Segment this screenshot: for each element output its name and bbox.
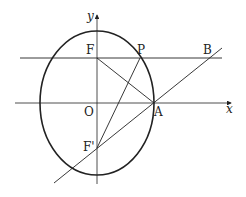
y-axis-label: y [86, 9, 94, 23]
label-origin: O [84, 105, 94, 119]
label-focus-f-prime: F' [83, 140, 95, 154]
line-f-prime-a-b [54, 48, 222, 183]
label-point-p: P [137, 43, 145, 57]
label-focus-f: F [86, 43, 94, 57]
label-vertex-a: A [153, 105, 163, 119]
label-point-b: B [203, 43, 212, 57]
ellipse-diagram: y x O F P B A F' [0, 0, 246, 197]
x-axis-label: x [226, 102, 233, 116]
